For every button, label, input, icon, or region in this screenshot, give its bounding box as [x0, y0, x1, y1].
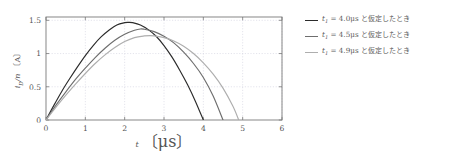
legend-line-swatch	[305, 20, 318, 21]
series-curve-2	[46, 36, 239, 120]
y-tick-label: 0.5	[29, 83, 41, 92]
chart-figure: 0123456 00.511.5 t〔μs〕iD/n〔A〕 t1 = 4.0μs…	[0, 0, 460, 162]
plot-svg: 0123456 00.511.5 t〔μs〕iD/n〔A〕	[0, 0, 300, 162]
grid-lines	[46, 17, 282, 120]
x-tick-label: 1	[83, 124, 88, 133]
axis-titles: t〔μs〕iD/n〔A〕	[13, 49, 192, 151]
x-tick-label: 5	[240, 124, 245, 133]
legend-line-swatch	[305, 36, 318, 37]
x-tick-label: 6	[280, 124, 285, 133]
y-tick-label: 0	[36, 116, 41, 125]
y-tick-label: 1.5	[29, 16, 41, 25]
y-tick-labels: 00.511.5	[29, 16, 41, 125]
legend-item-1[interactable]: t1 = 4.5μs と仮定したとき	[305, 30, 460, 43]
x-tick-label: 0	[44, 124, 49, 133]
y-axis-title: iD/n〔A〕	[13, 49, 24, 89]
y-tick-label: 1	[36, 49, 41, 58]
x-tick-label: 2	[122, 124, 127, 133]
legend-line-swatch	[305, 52, 318, 53]
legend-item-2[interactable]: t1 = 4.9μs と仮定したとき	[305, 46, 460, 59]
legend-label: t1 = 4.9μs と仮定したとき	[322, 44, 410, 60]
legend-label: t1 = 4.5μs と仮定したとき	[322, 28, 410, 44]
legend-label: t1 = 4.0μs と仮定したとき	[322, 12, 410, 28]
data-curves	[46, 22, 239, 120]
x-axis-title: t〔μs〕	[136, 132, 193, 151]
chart-legend: t1 = 4.0μs と仮定したときt1 = 4.5μs と仮定したときt1 =…	[305, 14, 460, 59]
legend-item-0[interactable]: t1 = 4.0μs と仮定したとき	[305, 14, 460, 27]
x-tick-label: 4	[201, 124, 206, 133]
plot-area: 0123456 00.511.5 t〔μs〕iD/n〔A〕	[0, 0, 300, 162]
